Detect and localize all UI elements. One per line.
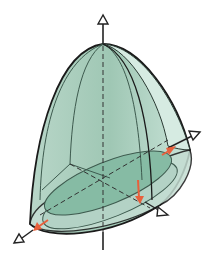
diagram-canvas — [0, 0, 211, 263]
arrow-right-icon — [189, 131, 200, 140]
paraboloid-diagram — [0, 0, 211, 263]
arrow-lower-left-icon — [14, 234, 24, 243]
arrow-up-icon — [98, 15, 108, 24]
arrow-lower-right-icon — [157, 207, 168, 216]
